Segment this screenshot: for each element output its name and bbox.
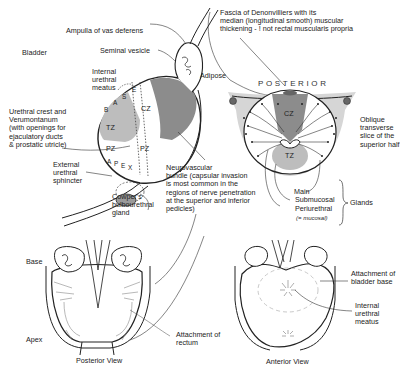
- label-posterior-view: Posterior View: [76, 357, 122, 365]
- label-bladder: Bladder: [22, 49, 47, 57]
- label-oblique: Oblique transverse slice of the superior…: [360, 116, 400, 149]
- apex-letter-e: E: [121, 162, 125, 169]
- label-neurovascular: Neurovascular bundle (capsular invasion …: [166, 164, 256, 213]
- apex-letter-a: A: [107, 158, 111, 165]
- label-glands-periurethral: Periurethral: [295, 205, 332, 213]
- label-seminal-vesicle: Seminal vesicle: [100, 47, 150, 55]
- label-urethral-crest: Urethral crest and Verumontanum (with op…: [9, 108, 67, 149]
- label-anterior-view: Anterior View: [266, 358, 309, 366]
- base-letter-s: S: [122, 93, 126, 100]
- base-letter-e: E: [132, 86, 136, 93]
- label-posterior: POSTERIOR: [258, 80, 329, 88]
- label-external-sphincter: External urethral sphincter: [53, 161, 82, 186]
- label-apex: Apex: [26, 336, 42, 344]
- zone-pz-right: PZ: [140, 145, 149, 153]
- zone-pz-left: PZ: [106, 145, 115, 153]
- label-attachment-bladder: Attachment of bladder base: [351, 270, 395, 286]
- label-cowpers: Cowper's bulbourethral gland: [112, 193, 154, 218]
- label-adipose: Adipose: [200, 72, 226, 80]
- label-glands-mucosal: (= mucosal): [296, 214, 328, 222]
- label-base: Base: [26, 258, 42, 266]
- label-internal-meatus-2: Internal urethral meatus: [355, 302, 379, 327]
- zone-tz-sagittal: TZ: [106, 124, 115, 132]
- label-fascia: Fascia of Denonvilliers with its median …: [220, 9, 353, 34]
- label-ampulla: Ampulla of vas deferens: [66, 27, 143, 35]
- apex-letter-p: P: [114, 160, 118, 167]
- zone-cz-sagittal: CZ: [141, 105, 151, 113]
- label-attachment-rectum: Attachment of rectum: [176, 331, 220, 347]
- base-letter-b: B: [104, 106, 108, 113]
- label-internal-meatus: Internal urethral meatus: [92, 68, 116, 93]
- zone-tz-transverse: TZ: [285, 152, 294, 160]
- apex-letter-x: X: [128, 164, 132, 171]
- anterior-view: [235, 240, 352, 350]
- zone-cz-transverse: CZ: [284, 110, 294, 118]
- base-letter-a: A: [113, 99, 117, 106]
- label-glands: Glands: [350, 199, 373, 207]
- label-glands-submucosal: Submucosal: [295, 196, 335, 204]
